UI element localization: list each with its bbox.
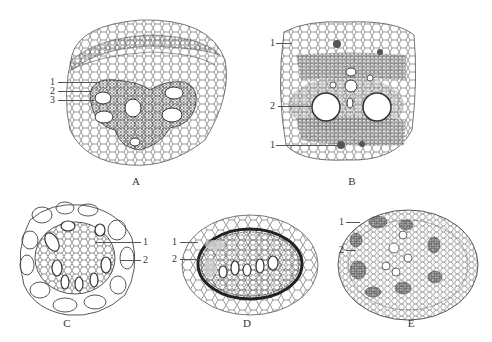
panel-e-label: E xyxy=(401,317,421,329)
panel-a: 1 2 3 A xyxy=(0,0,246,190)
callout-b-2-leader xyxy=(278,106,312,107)
callout-e-2-leader xyxy=(346,250,356,251)
panel-d-label: D xyxy=(237,317,257,329)
panel-c-label: C xyxy=(57,317,77,329)
panel-e: 1 2 E xyxy=(328,190,492,342)
callout-d-2: 2 xyxy=(172,254,177,264)
callout-c-1-leader xyxy=(95,242,141,243)
callout-c-2: 2 xyxy=(143,255,148,265)
callout-a-2-leader xyxy=(58,91,92,92)
panel-b-illustration xyxy=(246,0,492,190)
callout-d-1: 1 xyxy=(172,237,177,247)
callout-d-1-leader xyxy=(180,242,198,243)
callout-b-1-bottom-leader xyxy=(276,145,338,146)
callout-d-2-leader xyxy=(180,259,200,260)
panel-c-illustration xyxy=(0,190,160,342)
panel-a-illustration xyxy=(0,0,246,190)
panel-d: 1 2 D xyxy=(160,190,328,342)
callout-b-2: 2 xyxy=(270,101,275,111)
callout-e-2: 2 xyxy=(339,245,344,255)
callout-c-1: 1 xyxy=(143,237,148,247)
callout-c-2-leader xyxy=(120,260,141,261)
callout-a-3-leader xyxy=(58,100,94,101)
callout-e-1: 1 xyxy=(339,217,344,227)
panel-b-label: B xyxy=(342,175,362,187)
callout-b-1-top: 1 xyxy=(270,38,275,48)
panel-b: 1 2 1 B xyxy=(246,0,492,190)
panel-c: 1 2 C xyxy=(0,190,160,342)
callout-e-1-leader xyxy=(346,222,360,223)
callout-b-1-bottom: 1 xyxy=(270,140,275,150)
panel-a-label: A xyxy=(126,175,146,187)
callout-a-1-leader xyxy=(58,82,100,83)
callout-b-1-top-leader xyxy=(276,43,292,44)
callout-a-3: 3 xyxy=(50,95,55,105)
